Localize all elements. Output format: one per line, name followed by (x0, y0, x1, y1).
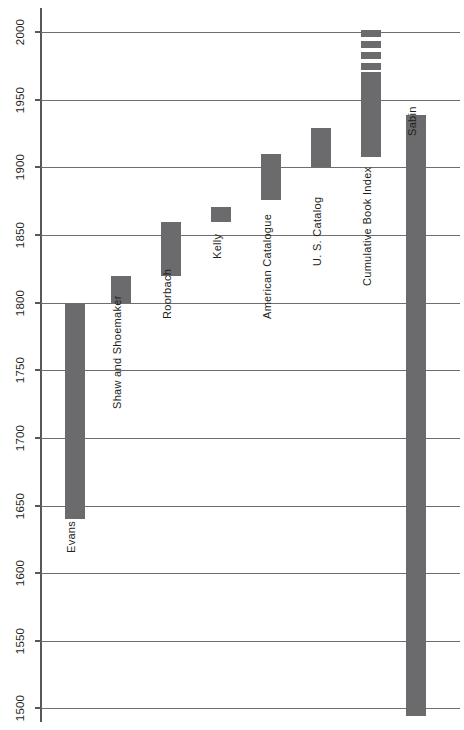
ytick-label-1800: 1800 (13, 283, 27, 323)
bar-label-american-catalogue: American Catalogue (261, 214, 273, 319)
tick-mark (35, 505, 41, 507)
ytick-label-2000: 2000 (13, 12, 27, 52)
ytick-label-1850: 1850 (13, 215, 27, 255)
dash-segment (361, 52, 381, 59)
gridline-1900 (40, 167, 460, 168)
bar-label-shaw-and-shoemaker: Shaw and Shoemaker (111, 295, 123, 409)
dash-segment (361, 30, 381, 37)
tick-mark (35, 31, 41, 33)
dash-segment (361, 41, 381, 48)
bar-sabin[interactable] (406, 115, 426, 716)
bar-american-catalogue[interactable] (261, 154, 281, 200)
bar-evans[interactable] (65, 303, 85, 519)
tick-mark (35, 572, 41, 574)
bar-label-cumulative-book-index: Cumulative Book Index (361, 167, 373, 286)
bar-label-kelly: Kelly (211, 234, 223, 259)
ytick-label-1700: 1700 (13, 418, 27, 458)
gridline-1500 (40, 708, 460, 709)
tick-mark (35, 234, 41, 236)
bar-label-roorbach: Roorbach (161, 269, 173, 319)
gridline-1650 (40, 506, 460, 507)
tick-mark (35, 437, 41, 439)
bar-roorbach[interactable] (161, 222, 181, 276)
gridline-1600 (40, 573, 460, 574)
tick-mark (35, 302, 41, 304)
gridline-1750 (40, 370, 460, 371)
chart-container: Evans Shaw and Shoemaker Roorbach Kelly … (0, 0, 464, 730)
bar-cumulative-book-index-dashed-extension[interactable] (361, 30, 381, 72)
dash-segment (361, 63, 381, 70)
bar-us-catalog[interactable] (311, 128, 331, 167)
bar-label-sabin: Sabin (406, 106, 418, 136)
ytick-label-1750: 1750 (13, 350, 27, 390)
gridline-1850 (40, 235, 460, 236)
ytick-label-1550: 1550 (13, 621, 27, 661)
gridline-2000 (40, 32, 460, 33)
tick-mark (35, 369, 41, 371)
bar-cumulative-book-index[interactable] (361, 72, 381, 157)
tick-mark (35, 166, 41, 168)
ytick-label-1900: 1900 (13, 147, 27, 187)
tick-mark (35, 640, 41, 642)
bar-label-evans: Evans (65, 521, 77, 553)
gridline-1950 (40, 100, 460, 101)
bar-kelly[interactable] (211, 207, 231, 222)
gridline-1550 (40, 641, 460, 642)
gridline-1800 (40, 303, 460, 304)
ytick-label-1650: 1650 (13, 486, 27, 526)
tick-mark (35, 99, 41, 101)
bar-label-us-catalog: U. S. Catalog (311, 197, 323, 266)
ytick-label-1600: 1600 (13, 553, 27, 593)
ytick-label-1950: 1950 (13, 80, 27, 120)
gridline-1700 (40, 438, 460, 439)
y-axis-line (40, 8, 42, 722)
ytick-label-1500: 1500 (13, 688, 27, 728)
plot-area: Evans Shaw and Shoemaker Roorbach Kelly … (40, 8, 464, 722)
tick-mark (35, 707, 41, 709)
